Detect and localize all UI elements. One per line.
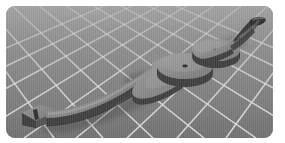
screenshot-root bbox=[0, 0, 285, 143]
3d-model-viewport[interactable] bbox=[6, 6, 273, 138]
hook-tip bbox=[234, 17, 266, 42]
curved-bow-limb-model[interactable] bbox=[6, 6, 273, 138]
